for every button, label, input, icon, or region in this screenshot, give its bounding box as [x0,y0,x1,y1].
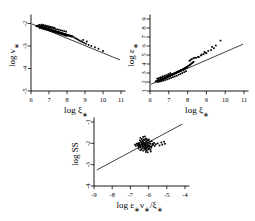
y-axis-label: log ε∗ [126,43,139,67]
y-tick-label: -3 [21,43,28,48]
data-point [142,136,144,138]
data-point [204,51,206,53]
data-point [176,75,178,77]
x-tick-label: 10 [100,96,106,103]
data-point [192,58,194,60]
data-point [44,29,46,31]
x-tick-label: -9 [91,191,96,198]
data-point [159,81,161,83]
y-tick-label: 4 [140,62,147,66]
data-point [203,53,205,55]
data-point [53,31,55,33]
data-point [195,57,197,59]
y-tick-label: -1 [84,119,91,124]
data-point [59,33,61,35]
data-point [150,149,152,151]
data-point [142,150,144,152]
data-point [164,75,166,77]
x-tick-label: 7 [47,96,51,103]
data-point [82,39,84,41]
data-point [144,142,146,144]
data-point [149,145,151,147]
data-point [51,31,53,33]
x-tick-label: 8 [65,96,68,103]
data-point [182,69,184,71]
data-point [57,32,59,34]
data-point [62,34,64,36]
x-tick-label: -7 [128,191,134,198]
data-point [85,43,87,45]
data-point [165,79,167,81]
data-point [38,24,40,26]
data-point [180,73,182,75]
data-point [148,139,150,141]
chart-panel-panel-b: 67891011123456789log ξ∗log ε∗ [126,15,248,118]
data-point [43,24,45,26]
y-tick-label: -2 [21,21,28,26]
data-point [42,28,44,30]
data-point [39,27,41,29]
data-point [220,40,222,42]
data-point [213,47,215,49]
data-point [150,147,152,149]
data-point [55,32,57,34]
data-point [140,149,142,151]
data-point [83,42,85,44]
data-point [159,145,161,147]
data-point [149,141,151,143]
data-point [198,56,200,58]
data-point [207,50,209,52]
data-point [191,58,193,60]
data-point [41,28,43,30]
data-point [138,148,140,150]
data-point [157,81,159,83]
data-point [46,25,48,27]
data-point [164,143,166,145]
x-axis-label: log ξ∗ [185,105,209,118]
data-point [50,26,52,28]
data-point [143,139,145,141]
data-point [41,24,43,26]
x-tick-label: -5 [164,191,169,198]
data-point [144,149,146,151]
y-tick-label: 8 [140,26,147,29]
x-tick-label: -4 [182,191,188,198]
data-point [46,29,48,31]
data-point [60,33,62,35]
data-point [144,136,146,138]
data-point [140,137,142,139]
data-point [174,76,176,78]
chart-panel-panel-a: 67891011-2-3-4-5log ξ∗log ν∗ [7,15,125,118]
data-point [65,31,67,33]
x-axis-label: log ξ∗ [64,105,88,118]
data-point [193,61,195,63]
data-point [148,148,150,150]
data-point [86,41,88,43]
y-tick-label: -2 [84,141,91,146]
y-tick-label: 2 [140,80,147,83]
data-point [161,144,163,146]
data-point [161,80,163,82]
y-axis-label: log SS [70,142,80,166]
data-points [36,24,104,52]
data-point [168,78,170,80]
data-point [180,70,182,72]
data-point [170,77,172,79]
data-point [215,45,217,47]
x-tick-label: 6 [148,96,151,103]
data-point [176,71,178,73]
data-point [98,48,100,50]
data-point [48,29,50,31]
data-point [155,143,157,145]
data-point [154,145,156,147]
data-point [148,142,150,144]
data-point [163,80,165,82]
data-point [160,142,162,144]
data-point [64,35,66,37]
data-point [146,144,148,146]
data-point [146,149,148,151]
data-point [168,73,170,75]
data-point [178,74,180,76]
data-point [58,29,60,31]
x-axis-label: log ε∗ν∗/ξ∗ [116,200,162,213]
